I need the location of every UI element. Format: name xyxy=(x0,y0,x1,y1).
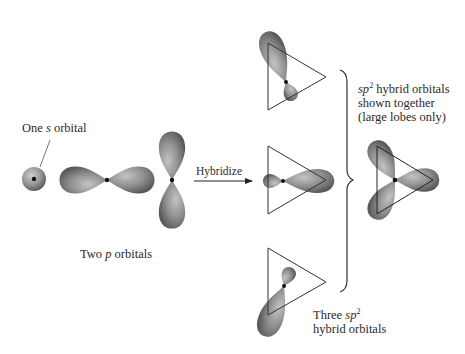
label-one-s-orbital: One s orbital xyxy=(22,121,87,135)
s-orbital xyxy=(22,140,50,191)
s-orbital-leader-line xyxy=(40,140,50,167)
sp2-hybrid-orbital-2 xyxy=(263,146,334,214)
label-sp2-shown-together: sp2 hybrid orbitals shown together (larg… xyxy=(358,82,450,124)
label-two-p-orbitals: Two p orbitals xyxy=(80,247,152,261)
sp2-combined-orbitals xyxy=(363,136,440,224)
sp2-hybrid-orbital-1 xyxy=(254,27,326,110)
p-orbital-horizontal xyxy=(59,167,154,194)
label-hybridize: Hybridize xyxy=(196,164,242,178)
curly-brace xyxy=(340,70,353,292)
label-three-sp2-hybrid-orbitals: Three sp2 hybrid orbitals xyxy=(313,308,386,336)
p-orbital-vertical xyxy=(159,131,185,228)
nucleus-dot xyxy=(32,177,36,181)
